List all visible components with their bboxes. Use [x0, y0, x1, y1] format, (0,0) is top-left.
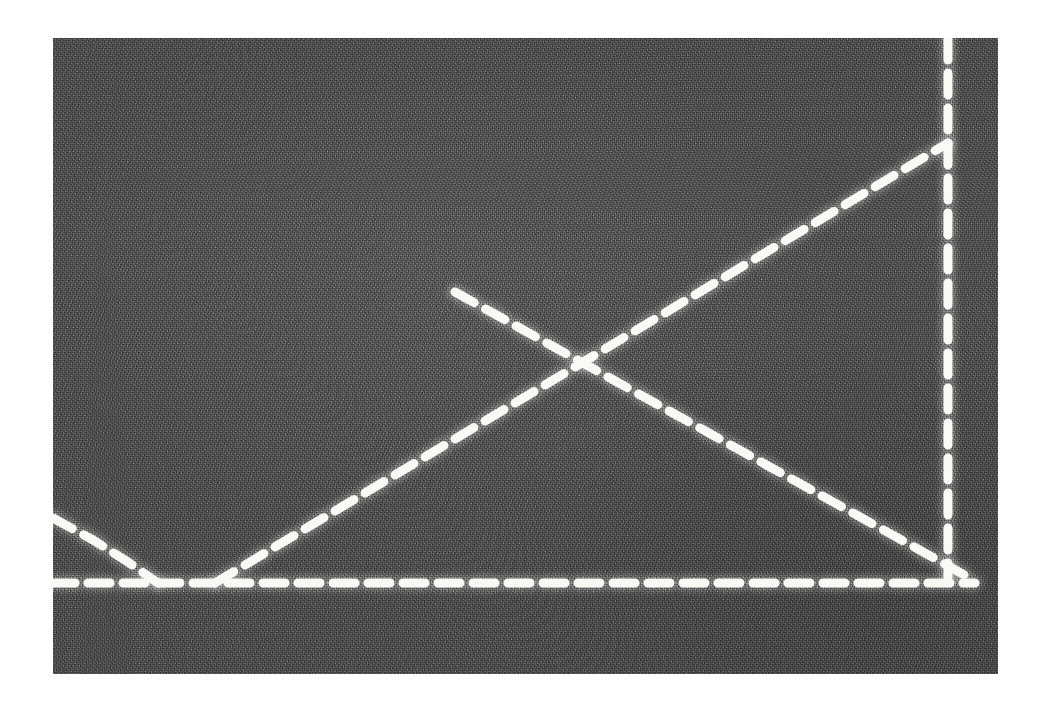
oscilloscope-screen-panel: Horizontal dashed baselineRising diagona… [53, 38, 998, 674]
trace-group: Horizontal dashed baselineRising diagona… [53, 38, 975, 583]
trace-canvas: Horizontal dashed baselineRising diagona… [53, 38, 998, 674]
screenshot-root: Horizontal dashed baselineRising diagona… [0, 0, 1046, 705]
photo-white-border: Horizontal dashed baselineRising diagona… [0, 0, 1046, 705]
trace-falling-ramp: Falling diagonal ramp [455, 292, 970, 578]
